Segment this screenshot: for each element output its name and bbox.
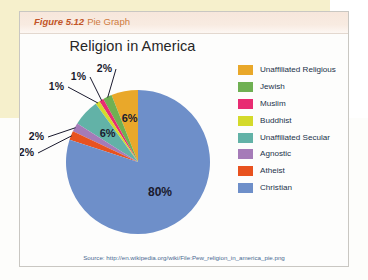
- chart-legend: Unaffiliated ReligiousJewishMuslimBuddhi…: [238, 62, 348, 196]
- pie-slice-value-label: 80%: [148, 185, 172, 199]
- figure-caption: Figure 5.12Pie Graph: [34, 16, 130, 27]
- legend-color-swatch: [238, 65, 253, 75]
- legend-color-swatch: [238, 82, 253, 92]
- label-leader-line: [68, 87, 98, 103]
- pie-chart: 6%2%1%1%6%2%2%80%: [20, 52, 245, 237]
- legend-color-swatch: [238, 183, 253, 193]
- pie-slice-value-label: 6%: [100, 127, 116, 139]
- pie-slice-value-label: 2%: [20, 146, 35, 158]
- pie-slice-value-label: 1%: [71, 70, 87, 82]
- legend-item: Unaffiliated Religious: [238, 62, 348, 79]
- source-attribution: Source: http://en.wikipedia.org/wiki/Fil…: [20, 254, 348, 261]
- figure-number: Figure 5.12: [34, 16, 84, 27]
- legend-item: Muslim: [238, 96, 348, 113]
- legend-item-label: Jewish: [260, 83, 285, 91]
- legend-item: Unaffiliated Secular: [238, 129, 348, 146]
- legend-item-label: Unaffiliated Religious: [260, 66, 336, 74]
- legend-item-label: Atheist: [260, 167, 285, 175]
- pie-slice-value-label: 2%: [97, 62, 113, 74]
- label-leader-line: [90, 77, 102, 101]
- pie-slice-value-label: 2%: [29, 130, 45, 142]
- legend-item-label: Buddhist: [260, 117, 292, 125]
- pie-slice-value-label: 1%: [49, 80, 65, 92]
- legend-color-swatch: [238, 166, 253, 176]
- legend-item-label: Agnostic: [260, 150, 291, 158]
- figure-container: Figure 5.12Pie Graph Religion in America…: [19, 11, 349, 267]
- legend-color-swatch: [238, 116, 253, 126]
- legend-item: Atheist: [238, 163, 348, 180]
- legend-item: Agnostic: [238, 146, 348, 163]
- pie-slice-group: [66, 90, 210, 234]
- figure-type-label: Pie Graph: [87, 16, 130, 27]
- figure-caption-bar: Figure 5.12Pie Graph: [20, 12, 348, 34]
- legend-item: Jewish: [238, 79, 348, 96]
- legend-item-label: Christian: [260, 184, 292, 192]
- pie-chart-svg: 6%2%1%1%6%2%2%80%: [20, 52, 245, 237]
- legend-color-swatch: [238, 149, 253, 159]
- legend-item-label: Muslim: [260, 100, 286, 108]
- legend-item: Christian: [238, 180, 348, 197]
- legend-color-swatch: [238, 133, 253, 143]
- legend-color-swatch: [238, 99, 253, 109]
- pie-slice-value-label: 6%: [122, 112, 138, 124]
- legend-item-label: Unaffiliated Secular: [260, 134, 330, 142]
- legend-item: Buddhist: [238, 112, 348, 129]
